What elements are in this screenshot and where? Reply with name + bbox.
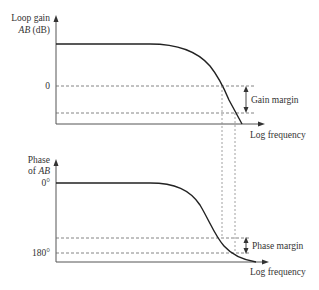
gain-y-axis-arrow-icon — [54, 15, 59, 22]
phase-tick-180: 180° — [32, 248, 50, 258]
phase-ylabel-prefix: of — [28, 166, 38, 176]
gain-plot: Loop gain AB (dB) 0 Gain margin Log freq… — [11, 13, 306, 140]
phase-ylabel-ab: AB — [37, 166, 50, 176]
phase-plot: Phase of AB 0° 180° Phase margin Log fre… — [28, 155, 306, 277]
phase-y-axis-arrow-icon — [54, 159, 59, 166]
gain-ylabel-ab: AB — [18, 25, 31, 35]
gain-margin-arrow-down-icon — [244, 107, 249, 113]
bode-plot-diagram: Loop gain AB (dB) 0 Gain margin Log freq… — [0, 0, 319, 290]
gain-ylabel-line1: Loop gain — [11, 13, 50, 23]
gain-curve — [56, 44, 242, 124]
phase-tick-zero: 0° — [41, 178, 50, 188]
phase-ylabel-line1: Phase — [28, 155, 50, 165]
gain-margin-label: Gain margin — [251, 95, 299, 105]
phase-x-axis-arrow-icon — [262, 260, 269, 265]
gain-ylabel-line2: AB (dB) — [18, 25, 50, 36]
gain-xlabel: Log frequency — [250, 130, 306, 140]
gain-tick-zero: 0 — [45, 81, 50, 91]
gain-x-axis-arrow-icon — [258, 122, 265, 127]
phase-ylabel-line2: of AB — [28, 166, 50, 176]
phase-curve — [56, 183, 256, 262]
phase-xlabel: Log frequency — [250, 267, 306, 277]
gain-ylabel-unit: (dB) — [30, 25, 50, 36]
gain-margin-arrow-up-icon — [244, 86, 249, 92]
phase-margin-label: Phase margin — [252, 241, 304, 251]
